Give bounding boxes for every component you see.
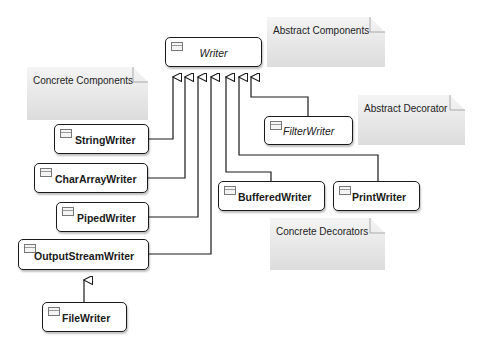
class-name: FileWriter (62, 312, 126, 324)
class-icon (339, 186, 351, 195)
class-name: Writer (166, 47, 261, 59)
class-name: BufferedWriter (238, 191, 324, 203)
class-icon (48, 307, 60, 316)
class-filter-writer[interactable]: FilterWriter (264, 116, 353, 145)
class-name: OutputStreamWriter (34, 250, 148, 262)
uml-class-diagram: Abstract Components Concrete Components … (0, 0, 483, 351)
class-icon (270, 121, 282, 130)
class-output-stream-writer[interactable]: OutputStreamWriter (18, 239, 149, 270)
class-writer[interactable]: Writer (165, 37, 262, 67)
class-icon (224, 186, 236, 195)
class-icon (62, 207, 74, 216)
class-name: CharArrayWriter (55, 173, 147, 185)
class-icon (60, 129, 72, 138)
class-string-writer[interactable]: StringWriter (54, 124, 149, 154)
class-name: PipedWriter (77, 212, 148, 224)
class-file-writer[interactable]: FileWriter (42, 302, 127, 332)
class-name: PrintWriter (352, 191, 419, 203)
class-buffered-writer[interactable]: BufferedWriter (218, 181, 325, 211)
class-piped-writer[interactable]: PipedWriter (56, 202, 149, 232)
class-icon (40, 168, 52, 177)
class-name: FilterWriter (283, 125, 352, 137)
class-print-writer[interactable]: PrintWriter (333, 181, 420, 211)
class-name: StringWriter (75, 134, 148, 146)
class-char-array-writer[interactable]: CharArrayWriter (34, 163, 148, 193)
